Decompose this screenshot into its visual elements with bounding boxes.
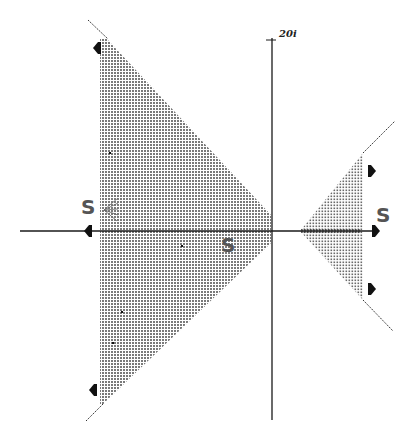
point-1 (109, 152, 111, 154)
s-label-center: S (221, 235, 235, 255)
right-sector-boundary-ray (363, 121, 395, 153)
point-3 (121, 311, 123, 313)
complex-plane-diagram (0, 0, 415, 442)
arrow-right-top-icon (368, 165, 376, 177)
imaginary-tick-label: 20i (279, 28, 297, 39)
left-sector-boundary-ray (86, 403, 104, 421)
left-sector (100, 38, 271, 404)
arrow-left-top-icon (93, 42, 101, 54)
arrow-left-bottom-icon (89, 384, 97, 396)
right-sector-boundary-ray (363, 300, 393, 331)
arrow-right-bottom-icon (368, 283, 376, 295)
point-2 (181, 245, 183, 247)
arrow-left-axis-icon (84, 225, 92, 237)
s-label-left: S (81, 197, 95, 217)
left-sector-boundary-ray (88, 20, 108, 39)
sectors (100, 38, 363, 404)
point-4 (112, 342, 114, 344)
s-label-right: S (376, 205, 390, 225)
right-sector (300, 153, 363, 300)
